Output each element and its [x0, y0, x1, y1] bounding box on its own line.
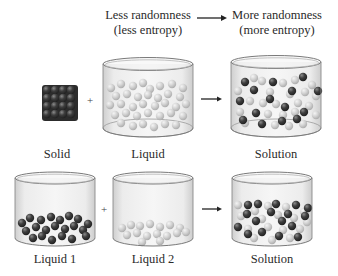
arrow-icon	[202, 207, 222, 212]
header-more-entropy: (more entropy)	[239, 23, 314, 37]
header-less-entropy: (less entropy)	[114, 23, 182, 37]
header-less-randomness: Less randomness	[105, 8, 191, 22]
label-solution-1: Solution	[255, 147, 297, 161]
entropy-diagram: +	[0, 0, 338, 276]
beaker-solution-icon	[232, 172, 312, 246]
header-arrow-icon	[197, 15, 227, 21]
beaker-liquid-icon	[103, 58, 193, 138]
label-solid: Solid	[44, 147, 70, 161]
plus-sign: +	[87, 94, 93, 106]
plus-sign: +	[101, 203, 107, 215]
solid-crystal-icon	[42, 85, 78, 121]
label-liquid: Liquid	[131, 147, 164, 161]
beaker-liquid2-icon	[113, 172, 193, 246]
header-more-randomness: More randomness	[232, 8, 322, 22]
label-liquid-1: Liquid 1	[34, 252, 77, 266]
arrow-icon	[201, 97, 222, 102]
beaker-solution-icon	[231, 56, 322, 138]
beaker-liquid1-icon	[15, 172, 95, 246]
label-liquid-2: Liquid 2	[132, 252, 175, 266]
label-solution-2: Solution	[251, 252, 293, 266]
